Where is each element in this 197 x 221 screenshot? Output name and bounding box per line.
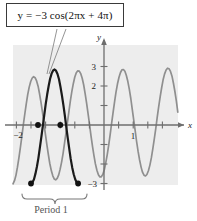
y-tick-label-neg3: −3 <box>87 179 97 189</box>
trig-graph-figure: x y −2 1 3 2 −3 y = −3 cos(2πx + 4π) Per… <box>0 0 197 221</box>
y-axis-label: y <box>96 32 101 42</box>
period-annotation-label: Period 1 <box>16 204 86 215</box>
y-axis <box>101 38 107 190</box>
graph-canvas: x y −2 1 3 2 −3 <box>0 0 197 221</box>
equation-callout-box: y = −3 cos(2πx + 4π) <box>6 3 124 27</box>
y-tick-label-3: 3 <box>92 62 97 72</box>
x-axis-label: x <box>187 120 192 130</box>
marked-points <box>28 122 81 186</box>
x-tick-label-1: 1 <box>131 131 136 141</box>
x-tick-label-neg2: −2 <box>13 130 23 140</box>
equation-label: y = −3 cos(2πx + 4π) <box>18 9 113 21</box>
leader-lines <box>47 29 66 74</box>
y-tick-label-2: 2 <box>92 81 97 91</box>
period-brace <box>22 194 87 204</box>
